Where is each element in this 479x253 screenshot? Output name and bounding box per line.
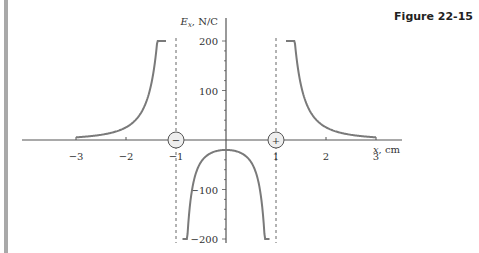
y-tick-label: 100 [199,86,218,97]
y-tick-label: −200 [191,234,218,245]
curve-left [76,41,166,137]
y-tick-label: 200 [199,36,218,47]
y-axis-label: Ex, N/C [180,16,219,29]
x-axis-label: x, cm [373,144,401,155]
x-tick-label: 2 [323,151,329,162]
y-tick-label: −100 [191,185,218,196]
x-tick-label: −2 [119,151,134,162]
charge-sign: − [172,135,180,146]
curve-right [286,41,376,137]
x-tick-label: 1 [273,151,279,162]
charge-sign: + [272,135,280,146]
x-tick-label: −1 [169,151,184,162]
chart: −3−2−1123200100−100−200Ex, N/Cx, cm−+ [0,0,479,253]
x-tick-label: −3 [69,151,84,162]
